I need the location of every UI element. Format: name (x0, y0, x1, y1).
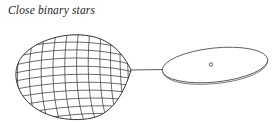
figure-root: Close binary stars (0, 0, 272, 129)
disk-top-face (161, 43, 270, 88)
accretion-disk (161, 43, 270, 89)
donor-star (11, 29, 133, 128)
mass-transfer-stream (131, 70, 166, 71)
binary-stars-diagram (0, 0, 272, 129)
compact-object (209, 63, 212, 66)
